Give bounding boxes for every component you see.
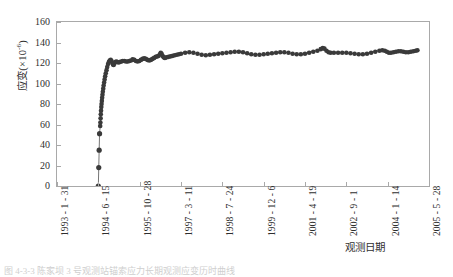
x-axis-tick-mark bbox=[222, 182, 223, 186]
figure-caption: 图 4-3-3 陈家坝 3 号观测站锚索应力长期观测应变历时曲线 bbox=[4, 264, 235, 277]
x-axis-tick-mark bbox=[57, 182, 58, 186]
x-axis-tick-mark bbox=[98, 182, 99, 186]
x-axis-tick-label: 1998 - 7 - 24 bbox=[226, 186, 236, 236]
x-axis-tick-mark bbox=[429, 182, 430, 186]
x-axis-tick-label: 2005 - 5 - 28 bbox=[433, 186, 443, 236]
x-axis-tick-label: 2004 - 1 - 14 bbox=[392, 186, 402, 236]
x-axis-tick-mark bbox=[264, 182, 265, 186]
x-axis-tick-mark bbox=[305, 182, 306, 186]
x-axis-tick-label: 2001 - 4 - 19 bbox=[309, 186, 319, 236]
x-axis-tick-label: 1993 - 1 - 31 bbox=[61, 186, 71, 236]
x-axis-tick-mark bbox=[140, 182, 141, 186]
x-axis-tick-mark bbox=[346, 182, 347, 186]
x-axis-title: 观测日期 bbox=[345, 239, 385, 254]
x-axis-tick-label: 2002 - 9 - 1 bbox=[350, 190, 360, 236]
x-axis-tick-label: 1997 - 3 - 11 bbox=[185, 186, 195, 236]
x-axis-tick-mark bbox=[181, 182, 182, 186]
x-axis-tick-label: 1994 - 6 - 15 bbox=[102, 186, 112, 236]
x-axis-tick-label: 1995 - 10 - 28 bbox=[144, 181, 154, 236]
x-axis-tick-label: 1999 - 12 - 6 bbox=[268, 186, 278, 236]
x-axis-tick-mark bbox=[388, 182, 389, 186]
